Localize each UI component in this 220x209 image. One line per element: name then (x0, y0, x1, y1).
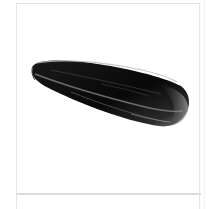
sunflower-seed-image[interactable] (31, 54, 191, 154)
product-image-card[interactable]: Sunflower seed (16, 3, 200, 194)
product-info-panel (16, 195, 200, 209)
product-image-alt: Sunflower seed (17, 4, 18, 5)
product-page: Sunflower seed (0, 0, 220, 209)
page-edge-line (204, 0, 205, 209)
